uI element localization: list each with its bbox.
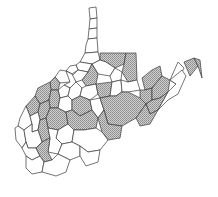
county-marshall <box>85 38 98 53</box>
county-brooke <box>89 18 97 29</box>
county-tucker <box>121 80 140 92</box>
county-ohio <box>88 28 97 39</box>
county-upshur <box>96 82 112 98</box>
county-layer <box>15 7 202 176</box>
county-hancock <box>89 7 97 19</box>
county-mcdowell <box>26 156 44 174</box>
west-virginia-county-map <box>0 0 218 197</box>
